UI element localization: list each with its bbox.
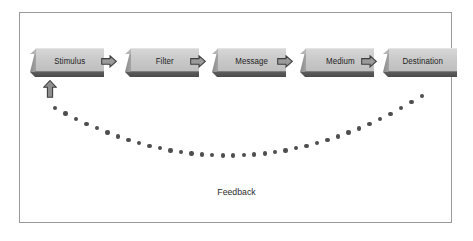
- feedback-dot: [273, 150, 277, 154]
- feedback-dot: [294, 146, 298, 150]
- feedback-dot: [420, 94, 424, 98]
- feedback-dot: [84, 122, 88, 126]
- feedback-dot: [95, 126, 99, 130]
- feedback-dot: [367, 122, 371, 126]
- feedback-dot: [74, 117, 78, 121]
- feedback-dot: [304, 144, 308, 148]
- feedback-dot: [252, 152, 256, 156]
- feedback-dot: [126, 138, 130, 142]
- feedback-dot: [158, 146, 162, 150]
- feedback-curve: [0, 0, 473, 241]
- feedback-dot: [105, 130, 109, 134]
- feedback-dot: [409, 100, 413, 104]
- feedback-dot: [179, 150, 183, 154]
- feedback-label: Feedback: [19, 186, 454, 197]
- feedback-dot: [53, 106, 57, 110]
- feedback-dot: [263, 151, 267, 155]
- feedback-dot: [315, 141, 319, 145]
- feedback-dot: [137, 141, 141, 145]
- feedback-dot: [242, 153, 246, 157]
- feedback-dot: [200, 152, 204, 156]
- feedback-dot: [168, 148, 172, 152]
- feedback-dot: [357, 126, 361, 130]
- feedback-dot: [221, 153, 225, 157]
- feedback-dot: [399, 106, 403, 110]
- feedback-dot: [210, 153, 214, 157]
- feedback-dot: [116, 134, 120, 138]
- feedback-dot: [147, 144, 151, 148]
- feedback-dot: [388, 112, 392, 116]
- diagram-canvas: StimulusFilterMessageMediumDestination F…: [0, 0, 473, 241]
- feedback-dot: [336, 134, 340, 138]
- feedback-dot: [231, 153, 235, 157]
- feedback-dot: [283, 148, 287, 152]
- feedback-dot: [63, 111, 67, 115]
- feedback-dot: [378, 117, 382, 121]
- feedback-dot: [189, 151, 193, 155]
- feedback-dot: [346, 130, 350, 134]
- feedback-dot: [325, 138, 329, 142]
